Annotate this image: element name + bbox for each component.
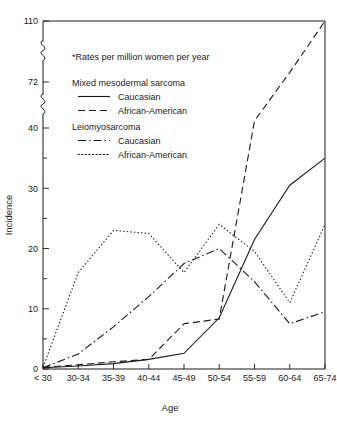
y-tick-labels: 01020304072110 xyxy=(24,16,38,374)
chart-note: *Rates per million women per year xyxy=(72,52,210,62)
x-tick-label: 60-64 xyxy=(278,373,301,383)
legend: Mixed mesodermal sarcomaCaucasianAfrican… xyxy=(72,78,187,160)
series-line xyxy=(43,249,325,368)
legend-entry-label: African-American xyxy=(118,150,187,160)
y-tick-label: 30 xyxy=(28,184,38,194)
y-tick-label: 20 xyxy=(28,244,38,254)
x-tick-label: 55-59 xyxy=(243,373,266,383)
y-tick-label: 72 xyxy=(28,77,38,87)
x-tick-labels: < 3030-3435-3940-4445-4950-5455-5960-646… xyxy=(34,373,336,383)
incidence-by-age-chart: 01020304072110 < 3030-3435-3940-4445-495… xyxy=(0,0,337,422)
legend-entry-label: Caucasian xyxy=(118,136,161,146)
x-tick-label: < 30 xyxy=(34,373,52,383)
series-line xyxy=(43,224,325,367)
axes-group xyxy=(43,21,325,369)
data-series-group xyxy=(43,21,325,368)
tick-group xyxy=(43,21,325,369)
x-tick-label: 40-44 xyxy=(137,373,160,383)
chart-canvas: 01020304072110 < 3030-3435-3940-4445-495… xyxy=(0,0,337,422)
x-axis-title: Age xyxy=(162,402,179,413)
legend-group-label: Leiomyosarcoma xyxy=(72,122,141,132)
series-line xyxy=(43,21,325,367)
x-tick-label: 35-39 xyxy=(102,373,125,383)
y-tick-label: 40 xyxy=(28,123,38,133)
y-axis-title: Incidence xyxy=(3,195,14,236)
x-tick-label: 45-49 xyxy=(172,373,195,383)
x-tick-label: 30-34 xyxy=(67,373,90,383)
x-tick-label: 65-74 xyxy=(313,373,336,383)
legend-entry-label: Caucasian xyxy=(118,92,161,102)
x-tick-label: 50-54 xyxy=(208,373,231,383)
legend-group-label: Mixed mesodermal sarcoma xyxy=(72,78,185,88)
legend-entry-label: African-American xyxy=(118,106,187,116)
y-tick-label: 110 xyxy=(24,16,38,26)
y-tick-label: 10 xyxy=(28,304,38,314)
